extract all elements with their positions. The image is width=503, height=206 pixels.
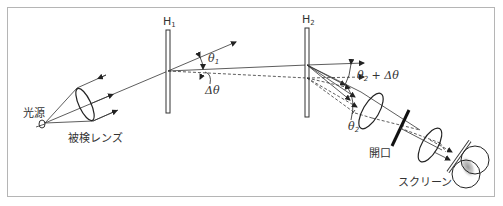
theta2-plus-delta-label: θ2 + Δθ <box>357 69 399 83</box>
h1-label: H1 <box>163 15 176 29</box>
screen-label: スクリーン <box>398 176 452 189</box>
collimated-rays <box>77 71 168 121</box>
test-lens-label: 被検レンズ <box>68 131 123 145</box>
hologram-h1 <box>166 30 170 113</box>
optical-diagram: H1 θ1 Δθ H2 θ2 + Δθ θ2 <box>0 0 503 206</box>
test-lens <box>72 86 98 123</box>
h1-rays <box>168 42 307 78</box>
hologram-h2 <box>305 28 309 117</box>
light-source-label: 光源 <box>23 106 45 120</box>
theta2-label: θ2 <box>348 120 360 134</box>
interference-pattern <box>452 146 489 188</box>
aperture-label: 開口 <box>369 147 391 160</box>
theta1-label: θ1 <box>208 52 219 66</box>
h2-label: H2 <box>302 13 315 27</box>
screen-rays <box>430 140 452 160</box>
theta2-indicator <box>345 64 355 120</box>
light-source <box>36 120 45 128</box>
delta-theta-label: Δθ <box>204 84 220 97</box>
relay-lens-1 <box>354 90 388 133</box>
